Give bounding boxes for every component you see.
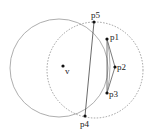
svg-text:p2: p2 <box>117 62 126 72</box>
point-p1: p1 <box>105 32 119 42</box>
svg-text:p3: p3 <box>109 89 119 99</box>
svg-text:p4: p4 <box>80 119 90 129</box>
point-p2: p2 <box>113 62 126 72</box>
point-p4: p4 <box>80 114 90 129</box>
geometry-diagram: v p1 p2 p3 p4 p5 <box>0 0 149 133</box>
chord-p5-p4 <box>85 22 94 116</box>
dashed-circle <box>47 22 143 118</box>
svg-text:p5: p5 <box>91 10 101 20</box>
point-v: v <box>61 64 70 76</box>
svg-text:p1: p1 <box>110 32 119 42</box>
point-p5: p5 <box>91 10 101 24</box>
svg-text:v: v <box>65 66 70 76</box>
